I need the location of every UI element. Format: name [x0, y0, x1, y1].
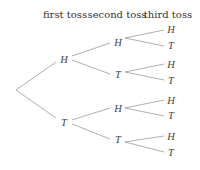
node-third-4: T [168, 75, 175, 86]
edge-root-H [16, 62, 56, 90]
node-third-7: H [166, 131, 176, 142]
edge-HT-H [125, 64, 164, 72]
node-third-8: T [168, 147, 175, 158]
edge-TT-H [125, 136, 164, 142]
header-first-toss: first toss [43, 9, 87, 20]
coin-toss-tree-diagram: first toss second toss third toss H T H … [0, 0, 200, 170]
header-third-toss: third toss [144, 9, 192, 20]
edge-HH-H [125, 30, 164, 38]
node-second-H-2: H [113, 103, 123, 114]
edge-HH-T [125, 38, 164, 46]
node-second-T-2: T [115, 134, 122, 145]
node-third-1: H [166, 24, 176, 35]
node-third-5: H [166, 95, 176, 106]
edge-TH-H [125, 100, 164, 108]
edge-T-T [72, 124, 110, 139]
node-third-6: T [168, 110, 175, 121]
edge-H-H [72, 43, 110, 56]
edge-root-T [16, 90, 56, 118]
node-first-H: H [59, 54, 69, 65]
edge-T-H [72, 108, 110, 120]
edge-H-T [72, 60, 110, 74]
node-third-2: T [168, 40, 175, 51]
node-second-T-1: T [115, 69, 122, 80]
node-second-H-1: H [113, 37, 123, 48]
edge-TH-T [125, 108, 164, 116]
node-third-3: H [166, 59, 176, 70]
edge-TT-T [125, 142, 164, 152]
edge-HT-T [125, 72, 164, 80]
header-second-toss: second toss [88, 9, 147, 20]
node-first-T: T [61, 117, 68, 128]
